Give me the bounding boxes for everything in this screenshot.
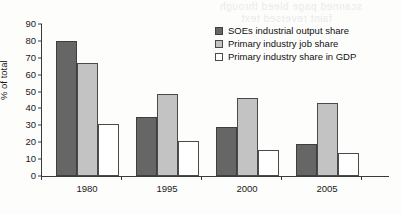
x-tick-label-1980: 1980 bbox=[76, 183, 97, 194]
x-tick-mark bbox=[281, 176, 282, 180]
legend-item-soes-industrial-output-share: SOEs industrial output share bbox=[215, 26, 356, 36]
bar-2005-series-2 bbox=[338, 153, 359, 176]
bar-1980-series-0 bbox=[56, 41, 77, 176]
bar-group-1980 bbox=[56, 24, 119, 176]
bleed-line-1: scanned page bleed through bbox=[220, 1, 362, 12]
bar-1980-series-1 bbox=[77, 63, 98, 176]
x-tick-label-2000: 2000 bbox=[236, 183, 257, 194]
x-tick-mark bbox=[201, 176, 202, 180]
bar-1995-series-2 bbox=[178, 141, 199, 176]
y-tick-label: 60 bbox=[0, 70, 41, 80]
y-tick-label: 10 bbox=[0, 154, 41, 164]
y-tick-label: 20 bbox=[0, 137, 41, 147]
y-tick-label: 80 bbox=[0, 36, 41, 46]
bar-chart: scanned page bleed through faint reverse… bbox=[0, 0, 402, 214]
legend-swatch-icon-series-0 bbox=[215, 27, 223, 35]
x-tick-label-1995: 1995 bbox=[156, 183, 177, 194]
x-tick-mark bbox=[41, 176, 42, 180]
legend-label-series-2: Primary industry share in GDP bbox=[228, 52, 356, 62]
y-tick-label: 90 bbox=[0, 19, 41, 29]
bar-1980-series-2 bbox=[98, 124, 119, 176]
bar-2000-series-1 bbox=[237, 98, 258, 176]
y-tick-label: 0 bbox=[0, 171, 41, 181]
bar-2000-series-0 bbox=[216, 127, 237, 176]
bar-1995-series-1 bbox=[157, 94, 178, 176]
legend-item-primary-industry-share-in-gdp: Primary industry share in GDP bbox=[215, 52, 356, 62]
x-tick-mark bbox=[361, 176, 362, 180]
bar-2005-series-0 bbox=[296, 144, 317, 176]
legend-swatch-icon-series-1 bbox=[215, 40, 223, 48]
bar-2005-series-1 bbox=[317, 103, 338, 176]
scan-bleed-through-artifact: scanned page bleed through faint reverse… bbox=[0, 0, 402, 26]
y-tick-label: 40 bbox=[0, 104, 41, 114]
chart-legend: SOEs industrial output share Primary ind… bbox=[215, 26, 356, 62]
bar-group-1995 bbox=[136, 24, 199, 176]
x-tick-label-2005: 2005 bbox=[316, 183, 337, 194]
y-tick-label: 70 bbox=[0, 53, 41, 63]
x-tick-mark bbox=[121, 176, 122, 180]
y-tick-label: 50 bbox=[0, 87, 41, 97]
legend-label-series-1: Primary industry job share bbox=[228, 39, 338, 49]
x-axis-line bbox=[41, 176, 389, 177]
bar-2000-series-2 bbox=[258, 150, 279, 176]
legend-label-series-0: SOEs industrial output share bbox=[228, 26, 349, 36]
bar-1995-series-0 bbox=[136, 117, 157, 176]
y-tick-label: 30 bbox=[0, 121, 41, 131]
legend-swatch-icon-series-2 bbox=[215, 53, 223, 61]
bleed-line-2: faint reversed text bbox=[241, 13, 332, 24]
legend-item-primary-industry-job-share: Primary industry job share bbox=[215, 39, 356, 49]
